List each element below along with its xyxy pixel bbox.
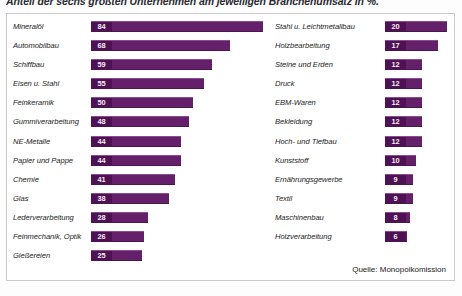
bar: 25 — [91, 250, 142, 261]
chart-row: Feinkeramik50 — [13, 95, 265, 114]
chart-row: Kunststoff10 — [275, 153, 449, 172]
bar: 9 — [385, 193, 413, 204]
bar-category-label: Feinkeramik — [13, 98, 54, 107]
bar-category-label: Feinmechanik, Optik — [13, 232, 81, 241]
bar-value-label: 12 — [385, 137, 406, 146]
bar-value-label: 44 — [91, 137, 112, 146]
bar-track: 55 — [91, 78, 263, 89]
bar-value-label: 41 — [91, 175, 112, 184]
bar-track: 84 — [91, 21, 263, 32]
bar: 41 — [91, 174, 175, 185]
bar-value-label: 68 — [91, 41, 112, 50]
bar: 12 — [385, 78, 422, 89]
bar: 10 — [385, 155, 416, 166]
bar: 55 — [91, 78, 204, 89]
bar-category-label: NE-Metalle — [13, 137, 50, 146]
bar-track: 12 — [385, 116, 447, 127]
bar: 44 — [91, 136, 181, 147]
chart-row: Automobilbau68 — [13, 38, 265, 57]
bar-value-label: 12 — [385, 79, 406, 88]
bar-value-label: 9 — [385, 194, 406, 203]
bar: 9 — [385, 174, 413, 185]
chart-row: Steine und Erden12 — [275, 57, 449, 76]
bar-track: 12 — [385, 78, 447, 89]
chart-container: Anteil der sechs größten Unternehmen am … — [0, 0, 462, 296]
bar-track: 50 — [91, 97, 263, 108]
bar-value-label: 26 — [91, 232, 112, 241]
bar-track: 6 — [385, 231, 447, 242]
chart-row: Glas38 — [13, 191, 265, 210]
bar-category-label: Hoch- und Tiefbau — [275, 137, 337, 146]
bar: 12 — [385, 97, 422, 108]
bar: 59 — [91, 59, 212, 70]
bar-track: 44 — [91, 136, 263, 147]
bar-category-label: Eisen u. Stahl — [13, 79, 59, 88]
chart-row: Ernährungsgewerbe9 — [275, 172, 449, 191]
bar: 84 — [91, 21, 263, 32]
bar: 50 — [91, 97, 193, 108]
chart-row: Holzbearbeitung17 — [275, 38, 449, 57]
bar-category-label: Holzverarbeitung — [275, 232, 332, 241]
bar: 12 — [385, 136, 422, 147]
bar-category-label: Lederverarbeitung — [13, 213, 74, 222]
bar-category-label: Steine und Erden — [275, 60, 333, 69]
bar: 28 — [91, 212, 148, 223]
bar-value-label: 17 — [385, 41, 406, 50]
chart-row: Eisen u. Stahl55 — [13, 76, 265, 95]
bar: 6 — [385, 231, 407, 242]
bar-track: 9 — [385, 174, 447, 185]
bar-value-label: 48 — [91, 117, 112, 126]
chart-plot-panel: Mineralöl84Automobilbau68Schiffbau59Eise… — [6, 13, 455, 281]
bar-column-right: Stahl u. Leichtmetallbau20Holzbearbeitun… — [275, 19, 449, 248]
bar-value-label: 44 — [91, 156, 112, 165]
bar-value-label: 28 — [91, 213, 112, 222]
bar-value-label: 20 — [385, 22, 406, 31]
chart-row: Holzverarbeitung6 — [275, 229, 449, 248]
bar-category-label: Bekleidung — [275, 117, 312, 126]
bar-track: 20 — [385, 21, 447, 32]
bar: 20 — [385, 21, 447, 32]
chart-row: Druck12 — [275, 76, 449, 95]
bar-value-label: 12 — [385, 98, 406, 107]
bar-category-label: Ernährungsgewerbe — [275, 175, 343, 184]
bar-track: 44 — [91, 155, 263, 166]
bar: 8 — [385, 212, 410, 223]
chart-row: Maschinenbau8 — [275, 210, 449, 229]
bar-value-label: 9 — [385, 175, 406, 184]
bar-category-label: Automobilbau — [13, 41, 59, 50]
bar-category-label: EBM-Waren — [275, 98, 316, 107]
bar: 26 — [91, 231, 144, 242]
bar-category-label: Papier und Pappe — [13, 156, 73, 165]
bar: 12 — [385, 59, 422, 70]
chart-row: Gummiverarbeitung48 — [13, 114, 265, 133]
bar-value-label: 8 — [385, 213, 406, 222]
bar-category-label: Schiffbau — [13, 60, 44, 69]
bar-track: 17 — [385, 40, 447, 51]
chart-row: Bekleidung12 — [275, 114, 449, 133]
bar-track: 26 — [91, 231, 263, 242]
bar-track: 12 — [385, 59, 447, 70]
bar-value-label: 12 — [385, 117, 406, 126]
bar-category-label: Gießereien — [13, 251, 50, 260]
bar-track: 28 — [91, 212, 263, 223]
bar-column-left: Mineralöl84Automobilbau68Schiffbau59Eise… — [13, 19, 265, 267]
chart-title: Anteil der sechs größten Unternehmen am … — [6, 0, 456, 9]
bar-track: 68 — [91, 40, 263, 51]
bar-track: 48 — [91, 116, 263, 127]
bar: 68 — [91, 40, 230, 51]
bar: 12 — [385, 116, 422, 127]
chart-row: Schiffbau59 — [13, 57, 265, 76]
bar-value-label: 25 — [91, 251, 112, 260]
chart-row: Stahl u. Leichtmetallbau20 — [275, 19, 449, 38]
bar-category-label: Chemie — [13, 175, 39, 184]
bar-value-label: 12 — [385, 60, 406, 69]
chart-row: Lederverarbeitung28 — [13, 210, 265, 229]
bar-track: 10 — [385, 155, 447, 166]
bar: 17 — [385, 40, 438, 51]
bar-track: 12 — [385, 136, 447, 147]
bar-track: 59 — [91, 59, 263, 70]
bar: 44 — [91, 155, 181, 166]
bar-value-label: 55 — [91, 79, 112, 88]
bar-value-label: 50 — [91, 98, 112, 107]
bar-category-label: Textil — [275, 194, 292, 203]
